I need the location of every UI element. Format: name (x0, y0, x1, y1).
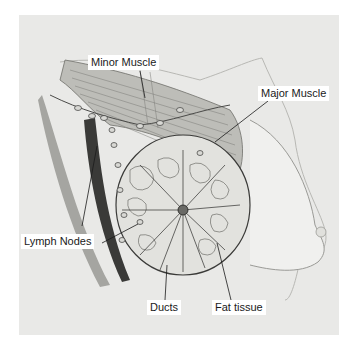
label-ducts: Ducts (147, 300, 181, 315)
breast-profile (250, 120, 324, 270)
label-major-muscle: Major Muscle (258, 86, 329, 101)
nipple (316, 227, 326, 237)
label-lymph-nodes: Lymph Nodes (21, 234, 94, 249)
label-fat-tissue: Fat tissue (212, 300, 266, 315)
label-minor-muscle: Minor Muscle (88, 55, 159, 70)
nipple-center (178, 205, 188, 215)
